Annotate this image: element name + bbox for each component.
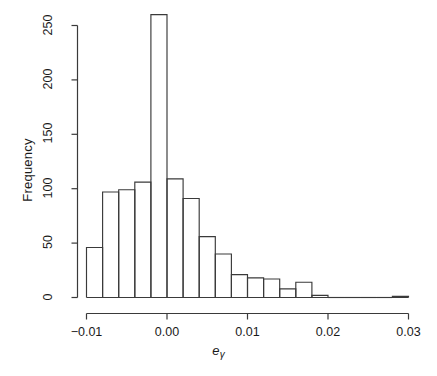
y-axis bbox=[72, 26, 78, 298]
y-axis-tick-label: 100 bbox=[41, 168, 55, 208]
x-axis-tick-label: −0.01 bbox=[57, 325, 117, 339]
histogram-figure: Frequency 050100150200250 −0.010.000.010… bbox=[0, 0, 437, 376]
y-axis-tick-label: 250 bbox=[41, 5, 55, 45]
histogram-bar bbox=[167, 179, 183, 298]
histogram-bar bbox=[87, 247, 103, 297]
y-axis-tick-label: 150 bbox=[41, 113, 55, 153]
histogram-bar bbox=[215, 254, 231, 298]
y-axis-label: Frequency bbox=[14, 20, 40, 320]
histogram-bar bbox=[248, 278, 264, 298]
histogram-bar bbox=[119, 190, 135, 298]
histogram-bar bbox=[199, 237, 215, 298]
y-axis-label-container: Frequency bbox=[6, 20, 32, 310]
x-axis-tick-label: 0.02 bbox=[298, 325, 358, 339]
y-axis-tick-label: 200 bbox=[41, 59, 55, 99]
x-axis-tick-label: 0.00 bbox=[137, 325, 197, 339]
histogram-bars bbox=[87, 15, 409, 298]
x-axis-label-subscript: γ bbox=[220, 349, 225, 360]
histogram-bar bbox=[231, 275, 247, 298]
histogram-bar bbox=[264, 279, 280, 298]
histogram-bar bbox=[183, 198, 199, 297]
histogram-bar bbox=[135, 182, 151, 297]
x-axis-tick-label: 0.01 bbox=[218, 325, 278, 339]
histogram-bar bbox=[151, 15, 167, 298]
x-axis bbox=[87, 314, 409, 320]
histogram-bar bbox=[103, 192, 119, 298]
histogram-plot bbox=[0, 0, 437, 376]
y-axis-tick-label: 50 bbox=[41, 222, 55, 262]
x-axis-label-base: e bbox=[212, 343, 219, 358]
x-axis-label: eγ bbox=[0, 343, 437, 360]
x-axis-tick-label: 0.03 bbox=[379, 325, 437, 339]
y-axis-tick-label: 0 bbox=[41, 277, 55, 317]
histogram-bar bbox=[296, 282, 312, 297]
histogram-bar bbox=[280, 289, 296, 298]
